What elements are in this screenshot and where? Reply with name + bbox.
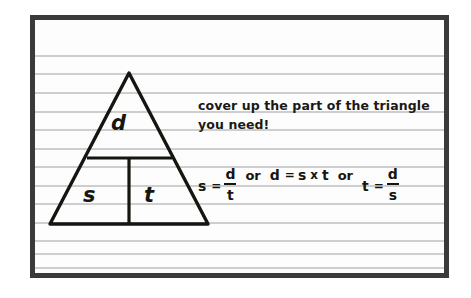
formula-row: s = d t or d = s x t or t = d s [198,168,399,203]
multiplication-icon: x [310,169,318,181]
formula-time-lhs: t [362,179,369,193]
formula-speed-denominator: t [226,188,235,202]
triangle-label-time: t [144,185,154,206]
formula-speed: s = d t [198,168,236,203]
formula-speed-equals: = [211,180,221,192]
formula-distance-factor-2: t [322,168,329,182]
notebook-page-canvas: d s t cover up the part of the triangle … [0,0,471,298]
formula-time-denominator: s [388,188,398,202]
instruction-line-2: you need! [198,115,448,134]
formula-distance: d = s x t [270,168,329,182]
page-border-top [30,15,449,20]
rule-line [30,267,449,269]
formula-time-equals: = [374,180,384,192]
page-border-right [444,15,449,278]
rule-line [30,240,449,242]
formula-conjunction-2: or [338,168,353,182]
formula-distance-equals: = [285,169,295,181]
speed-distance-time-triangle: d s t [40,65,220,235]
formula-time: t = d s [362,168,399,203]
formula-speed-lhs: s [198,179,206,193]
page-border-left [30,15,35,278]
formula-speed-numerator: d [224,167,236,182]
formula-distance-lhs: d [270,168,280,182]
triangle-svg [40,65,220,235]
formula-time-fraction: d s [387,167,399,202]
instruction-note: cover up the part of the triangle you ne… [198,96,448,135]
fraction-bar-icon [224,183,236,185]
rule-line [30,253,449,255]
formula-conjunction-1: or [245,168,260,182]
fraction-bar-icon [387,183,399,185]
page-border-bottom [30,273,449,278]
formula-time-numerator: d [387,167,399,182]
triangle-label-speed: s [83,185,96,206]
rule-line [30,55,449,57]
instruction-line-1: cover up the part of the triangle [198,96,448,115]
formula-distance-factor-1: s [298,168,306,182]
triangle-label-distance: d [111,113,126,134]
formula-speed-fraction: d t [224,167,236,202]
